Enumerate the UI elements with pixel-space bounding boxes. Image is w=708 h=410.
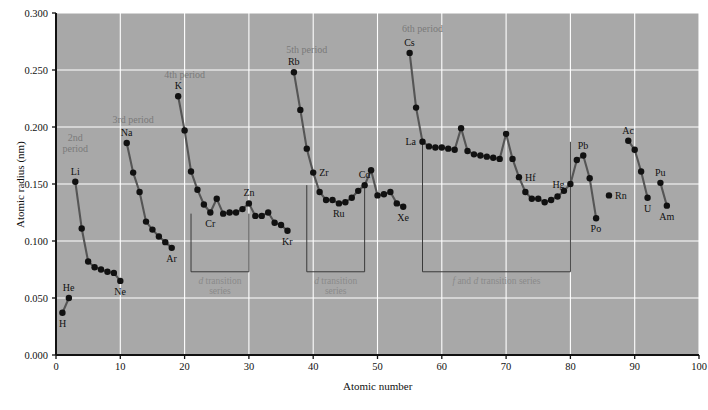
axis-lines bbox=[0, 0, 708, 410]
atomic-radius-chart: d transitionseriesd transitionseriesf an… bbox=[0, 0, 708, 410]
